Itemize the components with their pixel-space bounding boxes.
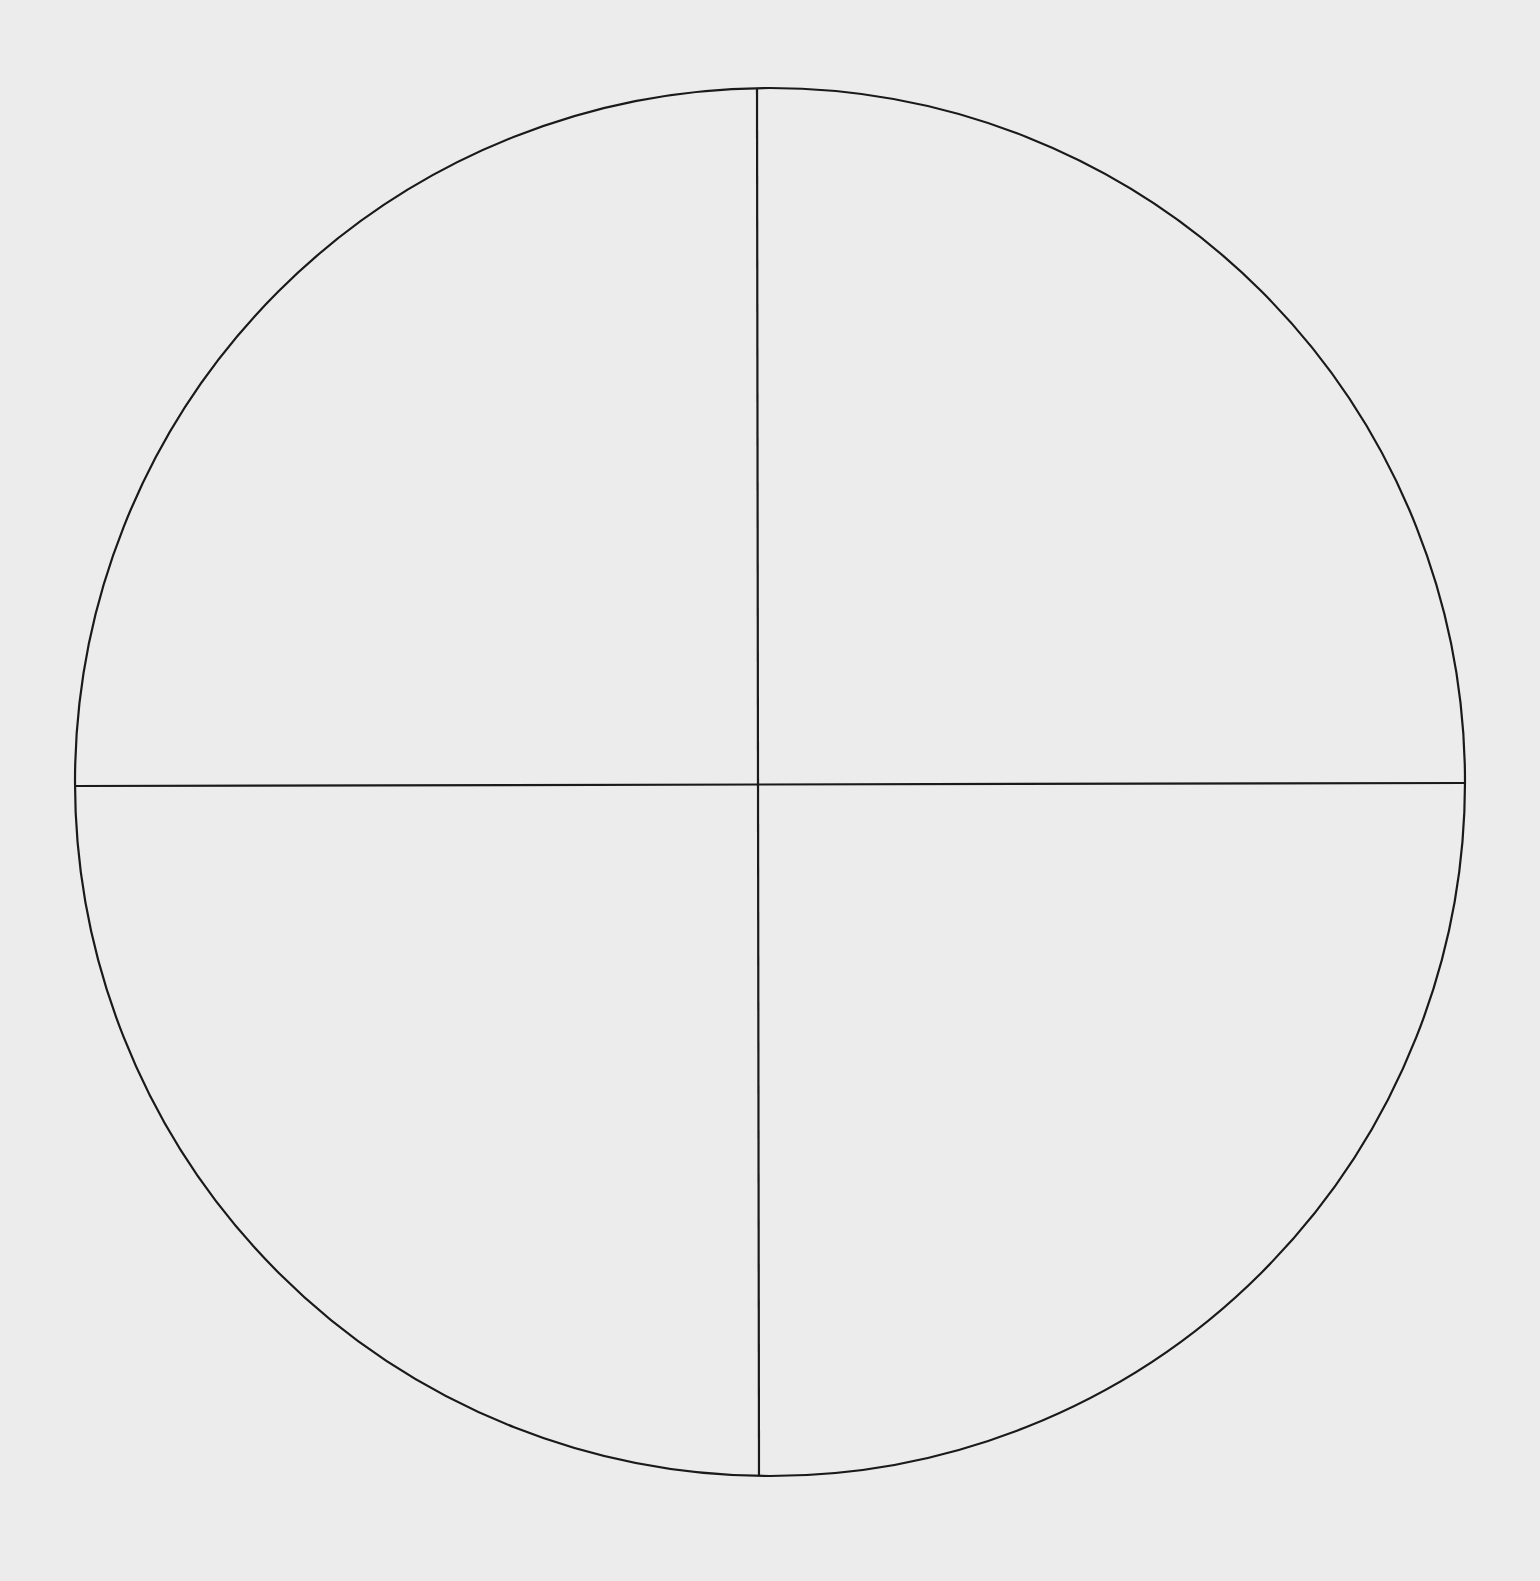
- page: [0, 0, 1540, 1581]
- quadrant-circle-diagram: [0, 0, 1540, 1581]
- paper-background: [0, 0, 1540, 1581]
